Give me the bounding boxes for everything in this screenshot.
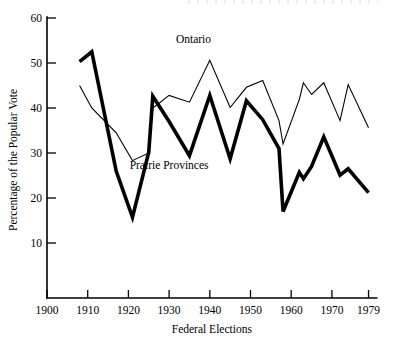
y-tick-label: 40 (31, 102, 43, 114)
chart-figure: 102030405060 190019101920193019401950196… (0, 0, 417, 346)
x-tick-label: 1930 (158, 304, 181, 316)
series-label-ontario: Ontario (176, 33, 211, 45)
x-tick-label: 1900 (36, 304, 59, 316)
x-tick-label: 1910 (76, 304, 99, 316)
series-line-prairie-provinces (80, 52, 369, 218)
x-axis-tick-marks (47, 290, 369, 298)
y-axis-title: Percentage of the Popular Vote (7, 89, 20, 231)
x-tick-label: 1979 (357, 304, 380, 316)
cropped-title-artifact (188, 0, 378, 4)
x-tick-label: 1950 (239, 304, 262, 316)
y-tick-label: 50 (31, 57, 43, 69)
y-tick-label: 30 (31, 147, 43, 159)
x-axis-title: Federal Elections (172, 323, 253, 335)
series-label-prairie-provinces: Prairie Provinces (130, 159, 209, 171)
y-tick-label: 20 (31, 192, 43, 204)
x-tick-label: 1970 (320, 304, 343, 316)
x-tick-label: 1940 (198, 304, 221, 316)
x-axis-tick-labels: 190019101920193019401950196019701979 (36, 304, 381, 316)
chart-canvas: 102030405060 190019101920193019401950196… (0, 0, 417, 346)
x-tick-label: 1920 (117, 304, 140, 316)
y-tick-label: 60 (31, 12, 43, 24)
y-tick-label: 10 (31, 237, 43, 249)
y-axis-tick-labels: 102030405060 (31, 12, 43, 249)
x-tick-label: 1960 (280, 304, 303, 316)
y-axis-tick-marks (47, 18, 56, 243)
